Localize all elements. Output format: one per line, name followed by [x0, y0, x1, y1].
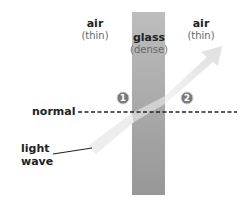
marker-2-label: 2: [181, 92, 193, 104]
region-air-left-title: air: [78, 18, 112, 30]
marker-1-label: 1: [117, 92, 129, 104]
normal-label: normal: [32, 105, 75, 118]
region-air-right-title: air: [184, 18, 218, 30]
region-air-right: air (thin): [184, 18, 218, 42]
region-glass-subtitle: (dense): [130, 44, 168, 56]
light-beam: [88, 113, 134, 154]
region-glass: glass (dense): [130, 32, 168, 56]
light-wave-label-line2: wave: [21, 155, 53, 168]
region-air-left: air (thin): [78, 18, 112, 42]
light-wave-leader: [53, 148, 92, 154]
region-air-right-subtitle: (thin): [184, 30, 218, 42]
region-glass-title: glass: [130, 32, 168, 44]
light-wave-label-line1: light: [21, 142, 53, 155]
region-air-left-subtitle: (thin): [78, 30, 112, 42]
light-wave-label: light wave: [21, 142, 53, 168]
